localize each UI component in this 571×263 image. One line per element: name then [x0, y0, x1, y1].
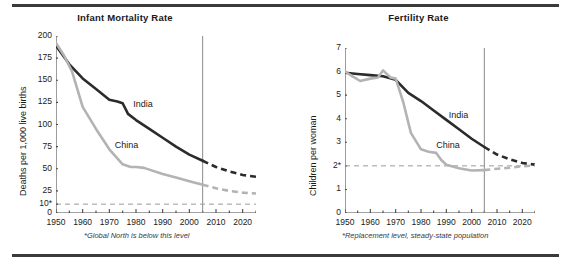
y-tick-label: 25: [22, 185, 52, 195]
y-tick-label: 175: [22, 52, 52, 62]
series-label-china: China: [115, 140, 139, 150]
x-tick-label: 2020: [505, 217, 539, 227]
y-tick-label: 7: [311, 42, 341, 52]
y-tick-label: 0: [311, 207, 341, 217]
series-label-india: India: [449, 110, 469, 120]
series-label-china: China: [436, 140, 460, 150]
y-tick-label: 3: [311, 136, 341, 146]
x-tick-label: 2020: [226, 217, 260, 227]
y-tick-label: 4: [311, 113, 341, 123]
figure-container: Infant Mortality Rate Deaths per 1,000 l…: [0, 0, 571, 263]
y-tick-label-reference: 10*: [22, 198, 52, 208]
y-tick-label: 5: [311, 89, 341, 99]
y-tick-label: 50: [22, 163, 52, 173]
chart-title-fertility: Fertility Rate: [278, 12, 559, 23]
series-label-india: India: [133, 99, 153, 109]
y-tick-label: 2*: [311, 160, 341, 170]
chart-title-infant-mortality: Infant Mortality Rate: [0, 12, 270, 23]
plot-area-infant-mortality: 025507510012515017520010*195019601970198…: [56, 36, 256, 213]
y-tick-label: 0: [22, 207, 52, 217]
plot-area-fertility: 012*345671950196019701980199020002010202…: [345, 48, 535, 213]
panel-infant-mortality: Infant Mortality Rate Deaths per 1,000 l…: [0, 0, 290, 263]
panel-fertility: Fertility Rate Children per woman 012*34…: [290, 0, 571, 263]
y-tick-label: 75: [22, 141, 52, 151]
footnote-fertility: *Replacement level, steady-state populat…: [342, 231, 488, 240]
y-tick-label: 125: [22, 96, 52, 106]
y-tick-label: 6: [311, 66, 341, 76]
footnote-infant-mortality: *Global North is below this level: [84, 231, 189, 240]
y-tick-label: 100: [22, 119, 52, 129]
chart-svg-fertility: [345, 48, 535, 213]
y-tick-label: 200: [22, 30, 52, 40]
y-tick-label: 1: [311, 183, 341, 193]
y-tick-label: 150: [22, 74, 52, 84]
chart-svg-infant-mortality: [56, 36, 256, 213]
